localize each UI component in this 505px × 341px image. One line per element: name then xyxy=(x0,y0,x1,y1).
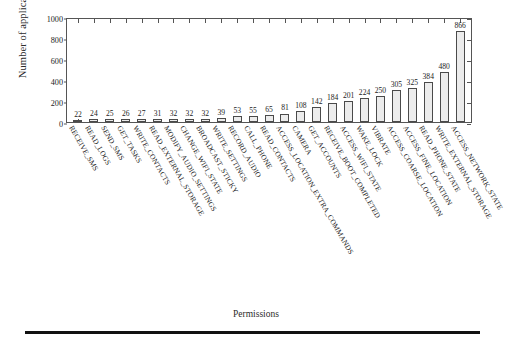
bar-slot: 480 xyxy=(436,19,452,122)
bar-value-label: 32 xyxy=(170,110,178,118)
bar-slot: 65 xyxy=(261,19,277,122)
bar-value-label: 65 xyxy=(265,106,273,114)
bar-slot: 32 xyxy=(197,19,213,122)
y-axis-title: Number of applications xyxy=(17,0,28,88)
bar-value-label: 31 xyxy=(154,110,162,118)
x-axis-title: Permissions xyxy=(0,309,486,319)
bar xyxy=(73,120,82,122)
bar-value-label: 108 xyxy=(295,102,306,110)
bar-slot: 305 xyxy=(388,19,404,122)
page-footer-rule xyxy=(25,331,480,334)
bar-value-label: 24 xyxy=(90,110,98,118)
bar xyxy=(408,88,417,122)
bar-value-label: 224 xyxy=(359,89,370,97)
bar-value-label: 27 xyxy=(138,110,146,118)
bar-slot: 201 xyxy=(341,19,357,122)
bar-slot: 53 xyxy=(229,19,245,122)
bar-slot: 224 xyxy=(357,19,373,122)
bar xyxy=(265,115,274,122)
bar xyxy=(360,98,369,122)
bar-value-label: 325 xyxy=(407,79,418,87)
bar-value-label: 184 xyxy=(327,94,338,102)
bar-value-label: 53 xyxy=(233,107,241,115)
bar-slot: 142 xyxy=(309,19,325,122)
bar-value-label: 55 xyxy=(249,107,257,115)
bar xyxy=(424,82,433,122)
bar-value-label: 22 xyxy=(74,111,82,119)
bar-value-label: 866 xyxy=(454,22,465,30)
bar xyxy=(392,90,401,122)
plot-area: 02004006008001000 2224252627313232323953… xyxy=(66,18,472,123)
bar xyxy=(344,101,353,122)
bar xyxy=(456,31,465,122)
bar xyxy=(137,119,146,122)
bar-slot: 250 xyxy=(373,19,389,122)
bar-slot: 27 xyxy=(134,19,150,122)
bar xyxy=(89,119,98,122)
bar xyxy=(121,119,130,122)
bar-slot: 32 xyxy=(181,19,197,122)
bar-value-label: 32 xyxy=(202,110,210,118)
bar xyxy=(217,118,226,122)
bar-slot: 39 xyxy=(213,19,229,122)
right-frame-tick xyxy=(467,124,471,125)
bar-slot: 55 xyxy=(245,19,261,122)
bar xyxy=(233,116,242,122)
bar-value-label: 26 xyxy=(122,110,130,118)
bar-slot: 866 xyxy=(452,19,468,122)
bar-value-label: 142 xyxy=(311,98,322,106)
bar xyxy=(185,119,194,122)
bar-value-label: 32 xyxy=(186,110,194,118)
bar-slot: 108 xyxy=(293,19,309,122)
bar-slot: 325 xyxy=(404,19,420,122)
bar-value-label: 250 xyxy=(375,87,386,95)
bar xyxy=(328,103,337,122)
bar-slot: 184 xyxy=(325,19,341,122)
bar-value-label: 25 xyxy=(106,110,114,118)
bar-value-label: 384 xyxy=(423,73,434,81)
bar xyxy=(440,72,449,122)
y-tick-mark xyxy=(64,124,67,125)
bar-value-label: 81 xyxy=(281,104,289,112)
bar xyxy=(105,119,114,122)
bar-value-label: 39 xyxy=(217,109,225,117)
bar-slot: 384 xyxy=(420,19,436,122)
bar xyxy=(376,96,385,122)
bar xyxy=(312,107,321,122)
bar-value-label: 305 xyxy=(391,81,402,89)
bar-slot: 22 xyxy=(70,19,86,122)
bar-value-label: 480 xyxy=(438,63,449,71)
bar-series: 2224252627313232323953556581108142184201… xyxy=(67,19,471,122)
bar-slot: 32 xyxy=(166,19,182,122)
x-axis-title-text: Permissions xyxy=(233,309,279,319)
bar-slot: 24 xyxy=(86,19,102,122)
bar xyxy=(201,119,210,122)
bar xyxy=(249,116,258,122)
bar xyxy=(169,119,178,122)
bar xyxy=(153,119,162,122)
bar-slot: 81 xyxy=(277,19,293,122)
bar-slot: 26 xyxy=(118,19,134,122)
bar-slot: 25 xyxy=(102,19,118,122)
bar-slot: 31 xyxy=(150,19,166,122)
bar xyxy=(296,111,305,122)
bar-value-label: 201 xyxy=(343,92,354,100)
bar xyxy=(280,114,289,123)
